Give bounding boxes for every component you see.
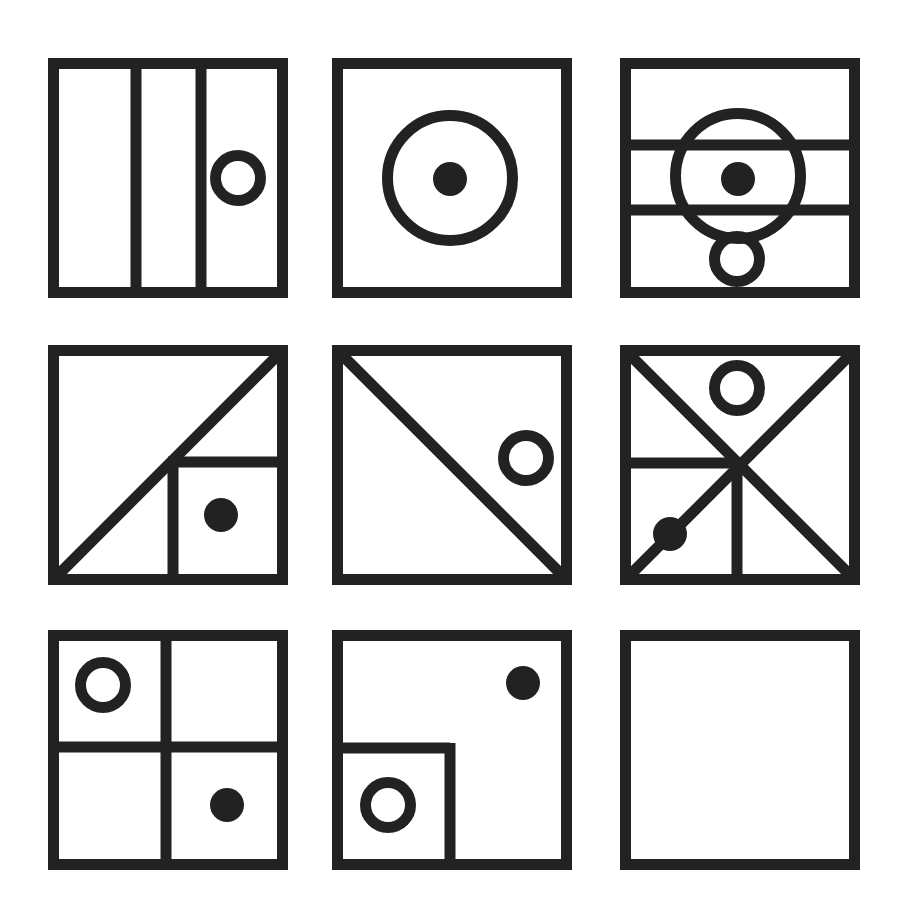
filled-dot-icon xyxy=(653,517,687,551)
divider-line xyxy=(338,351,566,579)
filled-dot-icon xyxy=(204,498,238,532)
panel-r3c1 xyxy=(48,630,288,870)
panel-figure xyxy=(332,58,572,298)
hollow-circle-icon xyxy=(216,156,261,201)
puzzle-matrix xyxy=(0,0,912,921)
filled-dot-icon xyxy=(721,162,755,196)
panel-figure xyxy=(48,630,288,870)
panel-figure xyxy=(620,345,860,585)
panel-r2c1 xyxy=(48,345,288,585)
panel-r3c2 xyxy=(332,630,572,870)
panel-figure xyxy=(620,58,860,298)
panel-figure xyxy=(48,345,288,585)
panel-r3c3 xyxy=(620,630,860,870)
hollow-circle-icon xyxy=(715,366,760,411)
panel-frame xyxy=(626,636,855,865)
panel-frame xyxy=(54,64,283,293)
filled-dot-icon xyxy=(210,788,244,822)
panel-figure xyxy=(332,345,572,585)
filled-dot-icon xyxy=(433,162,467,196)
panel-r1c2 xyxy=(332,58,572,298)
hollow-circle-icon xyxy=(504,436,549,481)
hollow-circle-icon xyxy=(81,663,126,708)
panel-r2c2 xyxy=(332,345,572,585)
hollow-circle-icon xyxy=(366,783,411,828)
panel-r2c3 xyxy=(620,345,860,585)
filled-dot-icon xyxy=(506,666,540,700)
panel-figure xyxy=(48,58,288,298)
panel-r1c1 xyxy=(48,58,288,298)
panel-figure xyxy=(620,630,860,870)
panel-figure xyxy=(332,630,572,870)
panel-r1c3 xyxy=(620,58,860,298)
